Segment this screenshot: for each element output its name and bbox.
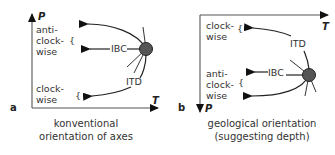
itd-arrow-b (253, 28, 291, 36)
ibc-label-b: IBC (268, 67, 284, 78)
anticlockwise-path-arrow-b (252, 75, 309, 96)
clockwise-text-b-1: clock- (206, 20, 234, 31)
brace-b-lower: { (238, 77, 244, 88)
t-axis-label-a: T (152, 95, 160, 106)
caption-b-line-2: (suggesting depth) (214, 131, 309, 142)
itd-label-b: ITD (290, 38, 306, 49)
anticlockwise-text-a-1: anti- (36, 24, 58, 35)
itd-arrow-a (92, 87, 131, 96)
node-circle-a (140, 43, 153, 56)
panel-label-a: a (10, 102, 17, 113)
ibc-label-a: IBC (111, 43, 127, 54)
itd-lower-segment-b (304, 51, 309, 69)
clockwise-text-b-2: wise (206, 31, 227, 42)
anticlockwise-text-a-2: clock- (36, 35, 64, 46)
clockwise-text-a-2: wise (36, 94, 57, 105)
panel-label-b: b (178, 102, 185, 113)
caption-b-line-1: geological orientation (208, 118, 317, 129)
anticlockwise-text-b-2: clock- (206, 79, 234, 90)
anticlockwise-text-b-1: anti- (206, 68, 228, 79)
p-axis-label-a: P (38, 11, 46, 22)
p-axis-label-b: P (205, 103, 213, 114)
panel-b: T P b clock- wise { anti- clock- wise { … (178, 15, 330, 114)
t-axis-label-b: T (322, 21, 330, 32)
clockwise-text-a-1: clock- (36, 83, 64, 94)
anticlockwise-text-a-3: wise (36, 46, 57, 57)
node-circle-b (303, 69, 316, 82)
itd-label-a: ITD (126, 76, 142, 87)
brace-a-lower: { (75, 90, 81, 101)
anticlockwise-text-b-3: wise (206, 90, 227, 101)
pt-path-diagram: P T a anti- clock- wise { clock- wise { … (0, 0, 335, 155)
brace-b-upper: { (237, 23, 243, 34)
brace-a-upper: { (69, 35, 75, 46)
panel-a: P T a anti- clock- wise { clock- wise { … (10, 11, 160, 113)
caption-a-line-1: konventional (54, 118, 118, 129)
caption-a-line-2: orientation of axes (39, 131, 133, 142)
